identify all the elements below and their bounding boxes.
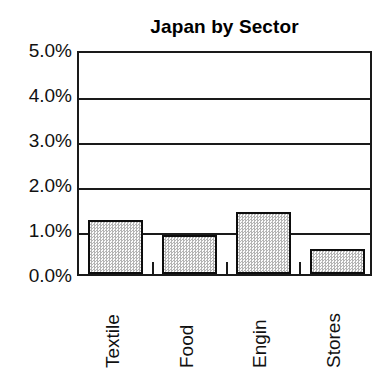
x-axis-tick bbox=[152, 262, 154, 274]
y-axis-tick-label: 4.0% bbox=[4, 86, 72, 105]
bar bbox=[88, 220, 143, 274]
x-axis-tick-label: Engin bbox=[250, 319, 269, 368]
y-axis-tick-label: 0.0% bbox=[4, 266, 72, 285]
x-axis-tick-label: Stores bbox=[324, 313, 343, 368]
x-axis-tick bbox=[226, 262, 228, 274]
plot-area bbox=[77, 51, 372, 276]
y-axis: 0.0%1.0%2.0%3.0%4.0%5.0% bbox=[0, 0, 72, 372]
x-axis-tick bbox=[299, 262, 301, 274]
x-axis-label-slot: Stores bbox=[323, 278, 347, 372]
x-axis-label-slot: Food bbox=[176, 278, 200, 372]
bar bbox=[162, 235, 217, 274]
y-axis-tick-label: 2.0% bbox=[4, 176, 72, 195]
gridline bbox=[79, 188, 370, 190]
y-axis-tick-label: 1.0% bbox=[4, 221, 72, 240]
y-axis-tick-label: 5.0% bbox=[4, 41, 72, 60]
y-axis-tick-label: 3.0% bbox=[4, 131, 72, 150]
x-axis-tick-label: Textile bbox=[103, 314, 122, 368]
gridline bbox=[79, 143, 370, 145]
chart-title: Japan by Sector bbox=[77, 16, 372, 38]
bar-chart: Japan by Sector 0.0%1.0%2.0%3.0%4.0%5.0%… bbox=[0, 0, 391, 372]
bar bbox=[310, 249, 365, 274]
gridline bbox=[79, 98, 370, 100]
x-axis-label-slot: Engin bbox=[249, 278, 273, 372]
x-axis-label-slot: Textile bbox=[102, 278, 126, 372]
x-axis-tick-label: Food bbox=[177, 325, 196, 368]
bar bbox=[236, 212, 291, 274]
x-axis: TextileFoodEnginStores bbox=[77, 278, 372, 372]
